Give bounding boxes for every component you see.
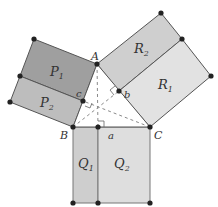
label-b-vertex: B	[59, 129, 68, 142]
label-foot-b: b	[124, 89, 130, 100]
label-foot-a: a	[108, 130, 114, 141]
label-foot-c: c	[76, 88, 82, 99]
label-a-vertex: A	[90, 50, 99, 63]
label-c-vertex: C	[154, 129, 163, 142]
pythagoras-diagram: A B C a b c P1 P2 R2 R1 Q1 Q2	[0, 0, 218, 207]
